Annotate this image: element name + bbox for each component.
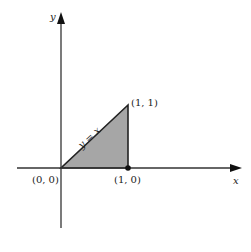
triangle-region-diagram: y x (0, 0) (1, 0) (1, 1) y = x	[0, 0, 251, 252]
y-axis-arrowhead-icon	[57, 12, 65, 24]
point-1-0-dot	[125, 165, 131, 171]
y-axis-label: y	[49, 11, 56, 22]
point-label-1-0: (1, 0)	[114, 174, 141, 185]
x-axis-arrowhead-icon	[230, 164, 242, 172]
point-label-origin: (0, 0)	[32, 174, 59, 185]
point-label-1-1: (1, 1)	[131, 97, 158, 108]
x-axis-label: x	[233, 175, 239, 186]
